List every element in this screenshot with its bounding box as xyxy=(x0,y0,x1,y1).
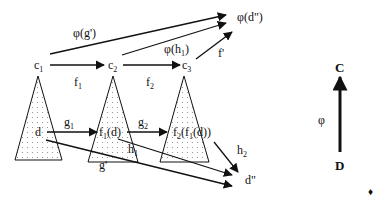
arrow-fprime xyxy=(196,32,232,59)
node-c2: c2 xyxy=(108,58,117,74)
label-phi-h1: φ(h1) xyxy=(164,42,189,58)
label-phi: φ xyxy=(318,113,325,127)
node-d: d xyxy=(35,125,41,139)
label-h2: h2 xyxy=(237,143,247,159)
label-f1: f1 xyxy=(74,75,82,91)
node-d2: d" xyxy=(245,173,256,187)
label-g1: g1 xyxy=(64,115,74,131)
label-g2: g2 xyxy=(138,115,148,131)
label-f2: f2 xyxy=(146,75,154,91)
label-fprime: f' xyxy=(218,46,224,60)
label-phi-g: φ(g') xyxy=(73,26,96,40)
node-phi-d2: φ(d") xyxy=(237,10,263,24)
category-diagram: c1 c2 c3 φ(d") d f1(d) f2(f1(d)) d" C D … xyxy=(0,0,381,204)
node-c1: c1 xyxy=(34,58,43,74)
node-C: C xyxy=(335,60,344,75)
node-D: D xyxy=(335,158,344,173)
label-gprime: g' xyxy=(99,158,107,172)
node-c3: c3 xyxy=(182,58,191,74)
cone-c3 xyxy=(160,76,209,162)
node-f1-d: f1(d) xyxy=(99,125,121,141)
arrow-h2 xyxy=(214,142,238,172)
cone-c1 xyxy=(15,76,62,160)
end-of-proof-diamond-icon: ♦ xyxy=(368,186,373,197)
